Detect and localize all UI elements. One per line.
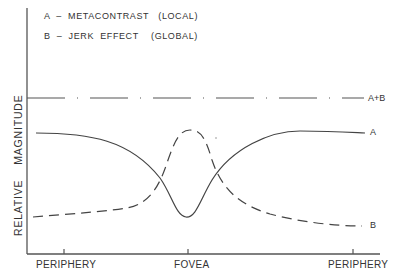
curve-label-a-plus-b: A+B xyxy=(368,93,385,103)
x-tick-label-left: PERIPHERY xyxy=(36,259,96,270)
curve-label-b: B xyxy=(370,220,376,230)
curve-a xyxy=(36,131,365,217)
curve-b xyxy=(33,130,362,226)
x-tick-label-right: PERIPHERY xyxy=(328,259,388,270)
diagram-plot xyxy=(0,0,400,280)
curve-label-a: A xyxy=(370,127,376,137)
x-tick-label-center: FOVEA xyxy=(174,259,209,270)
